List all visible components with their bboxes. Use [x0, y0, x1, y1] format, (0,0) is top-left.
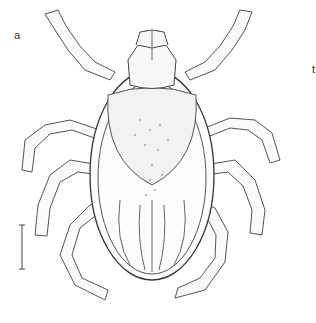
capitulum [128, 30, 176, 89]
scale-bar [19, 225, 25, 269]
body [90, 70, 214, 280]
tick-illustration [0, 0, 316, 323]
